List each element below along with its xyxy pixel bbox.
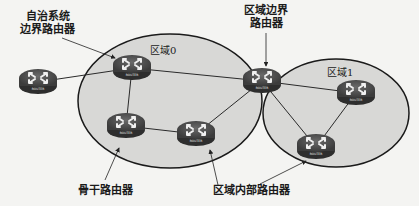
- router-label: ROUTER: [190, 139, 202, 143]
- router-backbone: ROUTER: [107, 113, 145, 138]
- router-internal0: ROUTER: [177, 121, 215, 146]
- router-r1b: ROUTER: [297, 134, 335, 159]
- router-label: ROUTER: [120, 131, 132, 135]
- router-label: ROUTER: [32, 87, 44, 91]
- router-abr: ROUTER: [243, 68, 281, 93]
- area1-label: 区域1: [327, 64, 353, 79]
- abr-callout-line1: 区域边界: [244, 4, 288, 17]
- area0-label: 区域0: [150, 42, 176, 57]
- asbr-callout-label: 自治系统 边界路由器: [20, 10, 75, 36]
- internal-callout-arrow-2: [260, 161, 306, 184]
- abr-callout-line2: 路由器: [244, 17, 288, 30]
- router-external: ROUTER: [19, 69, 57, 94]
- internal-callout-label: 区域内部路由器: [213, 184, 290, 197]
- backbone-callout-label: 骨干路由器: [78, 184, 133, 197]
- router-label: ROUTER: [256, 86, 268, 90]
- router-label: ROUTER: [310, 152, 322, 156]
- abr-callout-label: 区域边界 路由器: [244, 4, 288, 30]
- asbr-callout-line2: 边界路由器: [20, 23, 75, 36]
- asbr-callout-arrow: [62, 38, 115, 58]
- router-asbr: ROUTER: [113, 55, 151, 80]
- asbr-callout-line1: 自治系统: [20, 10, 75, 23]
- router-label: ROUTER: [126, 73, 138, 77]
- router-r1a: ROUTER: [337, 80, 375, 105]
- router-label: ROUTER: [350, 98, 362, 102]
